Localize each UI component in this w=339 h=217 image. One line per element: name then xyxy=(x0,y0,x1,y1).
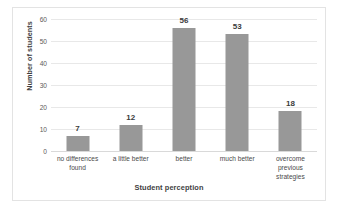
bar-column: 18 xyxy=(264,19,317,151)
x-axis-tick-label: better xyxy=(157,154,210,163)
bar-value-label: 12 xyxy=(126,113,135,122)
bar-value-label: 53 xyxy=(233,22,242,31)
bar-column: 56 xyxy=(157,19,210,151)
y-axis-tick-label: 0 xyxy=(43,148,47,155)
chart-figure: Number of students 010203040506071256531… xyxy=(12,7,326,201)
bar-column: 12 xyxy=(104,19,157,151)
bar-column: 7 xyxy=(51,19,104,151)
gridline xyxy=(51,151,317,152)
bar[interactable] xyxy=(172,28,195,151)
bar[interactable] xyxy=(226,34,249,151)
plot-inner: 0102030405060712565318 xyxy=(51,19,317,151)
bar[interactable] xyxy=(119,125,142,151)
y-axis-tick-label: 40 xyxy=(40,60,47,67)
bar-value-label: 56 xyxy=(180,16,189,25)
x-axis-tick-label: overcome previous strategies xyxy=(264,154,317,181)
y-axis-tick-label: 20 xyxy=(40,104,47,111)
y-axis-tick-label: 50 xyxy=(40,38,47,45)
y-axis-tick-label: 30 xyxy=(40,82,47,89)
bar-value-label: 18 xyxy=(286,99,295,108)
y-axis-tick-label: 60 xyxy=(40,16,47,23)
bar[interactable] xyxy=(66,136,89,151)
y-axis-tick-label: 10 xyxy=(40,126,47,133)
x-axis-tick-label: a little better xyxy=(104,154,157,163)
x-axis-tick-label: no differences found xyxy=(51,154,104,172)
x-axis-title: Student perception xyxy=(13,183,325,192)
bar-value-label: 7 xyxy=(75,124,79,133)
x-axis-tick-label: much better xyxy=(211,154,264,163)
y-axis-title: Number of students xyxy=(25,6,37,106)
bar[interactable] xyxy=(279,111,302,151)
plot-area: 0102030405060712565318 xyxy=(51,19,317,151)
bar-column: 53 xyxy=(211,19,264,151)
